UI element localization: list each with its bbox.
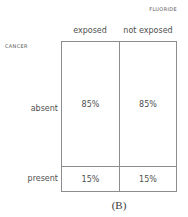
mosaic-plot-area: 85% 85% 15% 15%	[61, 41, 177, 192]
column-variable-label: Fluoride	[149, 4, 177, 13]
row-variable-label: Cancer	[5, 41, 28, 50]
mosaic-cell-absent-not-exposed: 85%	[119, 42, 176, 166]
cell-value: 15%	[82, 175, 100, 184]
mosaic-cell-absent-exposed: 85%	[62, 42, 119, 166]
mosaic-plot-figure: Fluoride Cancer exposed not exposed abse…	[0, 0, 188, 217]
panel-caption: (B)	[61, 199, 177, 211]
mosaic-cell-present-exposed: 15%	[62, 167, 119, 191]
row-header-absent: absent	[8, 104, 58, 113]
mosaic-band-absent: 85% 85%	[62, 42, 176, 166]
row-header-present: present	[8, 174, 58, 183]
column-header-exposed: exposed	[61, 26, 119, 35]
mosaic-band-present: 15% 15%	[62, 166, 176, 191]
cell-value: 85%	[139, 100, 157, 109]
mosaic-cell-present-not-exposed: 15%	[119, 167, 176, 191]
cell-value: 85%	[82, 100, 100, 109]
column-header-not-exposed: not exposed	[119, 26, 177, 35]
cell-value: 15%	[139, 175, 157, 184]
